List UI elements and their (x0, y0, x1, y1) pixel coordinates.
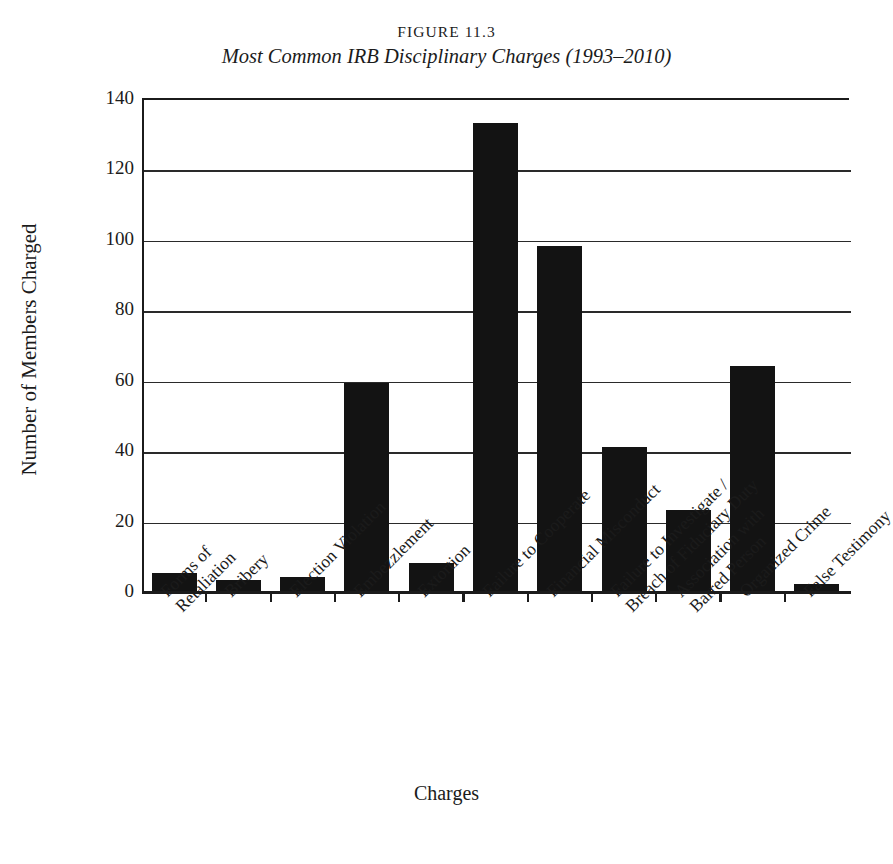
x-tick-mark (655, 591, 657, 602)
y-tick-label: 140 (88, 88, 134, 107)
x-tick-mark (334, 591, 336, 602)
x-tick-mark (270, 591, 272, 602)
x-axis-title: Charges (0, 782, 893, 805)
x-tick-mark (205, 591, 207, 602)
y-tick-label: 60 (88, 370, 134, 389)
y-tick-label: 100 (88, 229, 134, 248)
x-tick-mark (719, 591, 721, 602)
x-tick-mark (527, 591, 529, 602)
y-tick-label: 20 (88, 511, 134, 530)
y-tick-label: 40 (88, 440, 134, 459)
x-tick-mark (591, 591, 593, 602)
x-tick-mark (462, 591, 464, 602)
y-tick-label: 80 (88, 299, 134, 318)
bar (473, 123, 518, 591)
y-tick-label: 120 (88, 158, 134, 177)
x-tick-mark (784, 591, 786, 602)
y-axis-title: Number of Members Charged (17, 180, 42, 520)
x-axis-ticks: Forms ofRetaliationBriberyElection Viola… (0, 591, 893, 791)
x-tick-mark (398, 591, 400, 602)
